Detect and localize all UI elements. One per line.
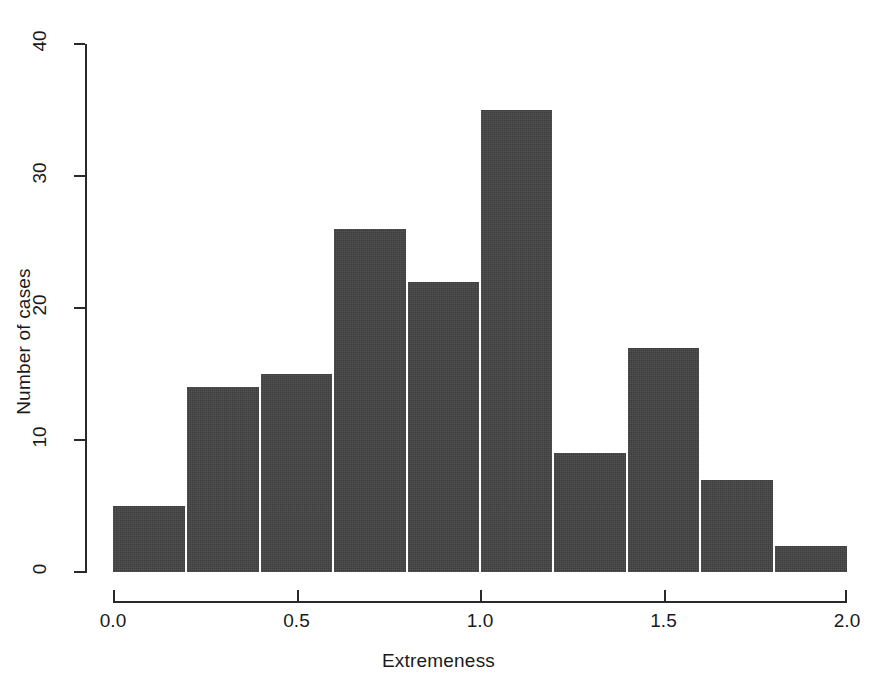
x-axis-tick (664, 590, 666, 603)
histogram-bar (260, 374, 333, 572)
histogram-bar (333, 229, 406, 572)
x-axis-tick-label: 0.5 (262, 610, 332, 632)
y-axis-tick-label: 10 (18, 426, 62, 448)
histogram-bar (774, 546, 847, 572)
y-axis-tick (74, 175, 85, 177)
histogram-bar (700, 480, 773, 572)
y-axis-tick-label: 30 (18, 162, 62, 184)
y-axis-tick (74, 43, 85, 45)
histogram-bar (407, 282, 480, 572)
histogram-bar (553, 453, 626, 572)
x-axis-tick-label: 2.0 (812, 610, 877, 632)
x-axis-tick (845, 590, 847, 603)
x-axis-label: Extremeness (0, 650, 877, 672)
x-axis-tick (113, 590, 115, 603)
histogram-chart: Number of cases 010203040 0.00.51.01.52.… (0, 0, 877, 683)
y-axis-tick-label: 20 (18, 294, 62, 316)
histogram-bar (480, 110, 553, 572)
y-axis-tick-label: 40 (18, 30, 62, 52)
x-axis-tick (480, 590, 482, 603)
histogram-bar (186, 387, 259, 572)
histogram-bar (627, 348, 700, 572)
y-axis-tick (74, 439, 85, 441)
x-axis-tick-label: 0.0 (78, 610, 148, 632)
x-axis-tick (297, 590, 299, 603)
y-axis-tick (74, 571, 85, 573)
x-axis-tick-label: 1.5 (629, 610, 699, 632)
y-axis-label: Number of cases (0, 0, 48, 683)
y-axis-tick (74, 307, 85, 309)
x-axis-tick-label: 1.0 (445, 610, 515, 632)
plot-area (113, 40, 847, 572)
histogram-bar (113, 506, 186, 572)
y-axis-tick-label: 0 (18, 558, 62, 580)
y-axis-line (85, 44, 87, 573)
